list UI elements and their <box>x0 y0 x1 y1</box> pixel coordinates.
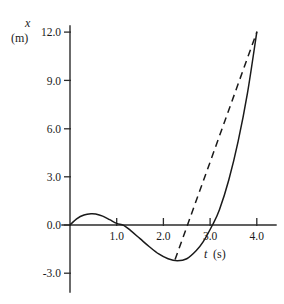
y-tick-labels: 12.0 9.0 6.0 3.0 0.0 -3.0 <box>41 26 61 279</box>
x-axis-title-symbol: t <box>204 247 208 261</box>
y-tick-label-0: 0.0 <box>47 219 62 231</box>
y-tick-label-neg3: -3.0 <box>43 267 61 279</box>
y-tick-label-3: 3.0 <box>47 171 62 183</box>
y-tick-label-6: 6.0 <box>47 123 62 135</box>
x-tick-label-2: 2.0 <box>156 230 171 242</box>
chart-figure: 12.0 9.0 6.0 3.0 0.0 -3.0 1.0 2.0 3.0 4.… <box>0 0 284 304</box>
position-vs-time-plot: 12.0 9.0 6.0 3.0 0.0 -3.0 1.0 2.0 3.0 4.… <box>0 0 284 304</box>
x-axis-title-unit: (s) <box>213 247 226 261</box>
x-tick-label-1: 1.0 <box>110 230 125 242</box>
y-tick-label-9: 9.0 <box>47 75 62 87</box>
x-tick-label-3: 3.0 <box>203 230 218 242</box>
y-axis-title-symbol: x <box>24 16 31 30</box>
y-tick-label-12: 12.0 <box>41 26 61 38</box>
position-curve <box>70 32 257 261</box>
y-axis-title-unit: (m) <box>11 31 28 45</box>
x-tick-label-4: 4.0 <box>250 230 265 242</box>
